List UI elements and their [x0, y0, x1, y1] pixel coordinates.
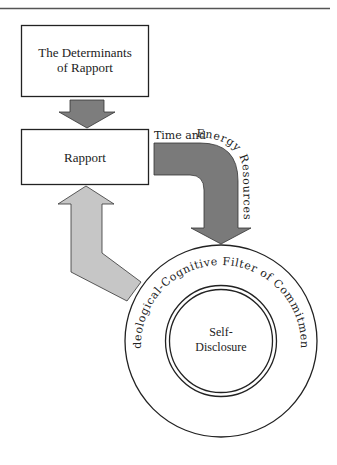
- determinants-label-line1: The Determinants: [21, 45, 149, 60]
- rapport-label: Rapport: [21, 150, 149, 165]
- feedback-arrow-icon: [58, 186, 141, 301]
- diagram-canvas: Ideological-Cognitive Filter of Commitme…: [0, 0, 337, 465]
- disclosure-label: Self- Disclosure: [171, 325, 271, 355]
- determinants-label-line2: of Rapport: [21, 60, 149, 75]
- resources-arrow-icon: [154, 143, 251, 244]
- disclosure-label-line2: Disclosure: [171, 340, 271, 355]
- disclosure-label-line1: Self-: [171, 325, 271, 340]
- down-arrow-icon: [59, 100, 115, 128]
- rapport-label-text: Rapport: [21, 150, 149, 165]
- determinants-label: The Determinants of Rapport: [21, 45, 149, 75]
